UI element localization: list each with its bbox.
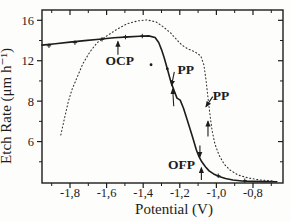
- data-point-markers: [47, 34, 247, 183]
- x-tick-label: -1,2: [170, 186, 190, 200]
- scanned-etch-rate-figure: -1,8-1,6-1,4-1,2-1,0-0,8Potential (V)161…: [0, 0, 291, 222]
- x-tick-label: -1,0: [206, 186, 226, 200]
- y-tick-label: 16: [22, 14, 35, 28]
- annotation-label: OFP: [168, 157, 195, 172]
- x-tick-label: -1,8: [60, 186, 80, 200]
- x-axis-title: Potential (V): [135, 201, 213, 218]
- etch-rate-solid-curve: [42, 36, 277, 182]
- y-tick-label: 12: [22, 54, 35, 68]
- y-axis-title: Etch Rate (μm h⁻¹): [0, 48, 15, 164]
- y-tick-label: 6: [28, 135, 34, 149]
- annotation-label: OCP: [106, 53, 135, 68]
- annotation-ocp-0: OCP: [106, 42, 135, 69]
- x-tick-label: -1,6: [97, 186, 117, 200]
- annotation-pp-2: PP: [206, 88, 229, 136]
- annotation-pp-1: PP: [172, 62, 194, 106]
- annotation-label: PP: [213, 88, 230, 103]
- x-tick-label: -0,8: [243, 186, 263, 200]
- plot-frame: [42, 10, 283, 183]
- annotation-label: PP: [177, 62, 194, 77]
- x-tick-label: -1,4: [133, 186, 154, 200]
- y-tick-label: 8: [28, 95, 34, 109]
- etch-rate-chart: -1,8-1,6-1,4-1,2-1,0-0,8Potential (V)161…: [0, 0, 291, 222]
